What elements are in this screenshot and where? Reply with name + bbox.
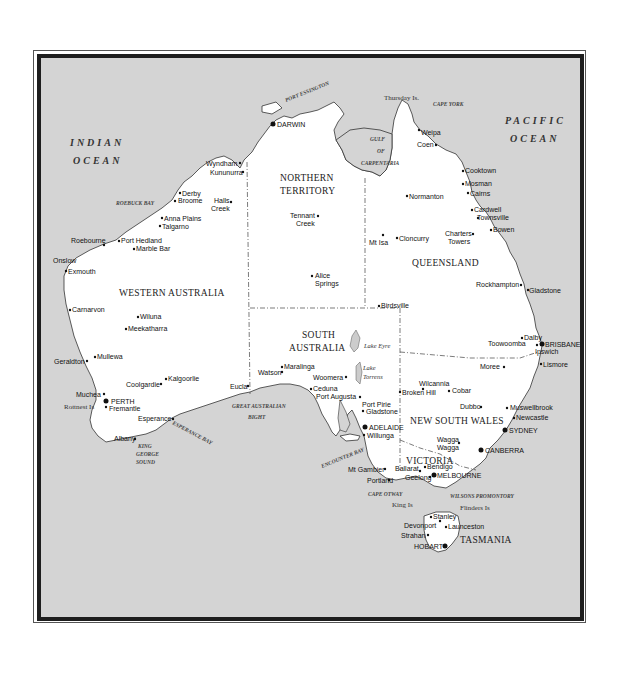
state-label-sa: SOUTH — [302, 330, 335, 340]
town-onslow: Onslow — [53, 257, 77, 264]
thursday-island-label: Thursday Is. — [384, 94, 419, 102]
town-tennant-creek-line2: Creek — [296, 220, 315, 227]
town-birdsville: Birdsville — [381, 302, 409, 309]
state-label-nt-line2: TERRITORY — [280, 186, 335, 196]
town-toowoomba: Toowoomba — [488, 340, 526, 347]
town-mosman: Mosman — [465, 180, 492, 187]
town-maralinga: Maralinga — [284, 363, 315, 371]
town-port-augusta: Port Augusta — [316, 393, 356, 401]
gulf-label-line2: OF — [377, 148, 385, 154]
town-coolgardie: Coolgardie — [126, 381, 160, 389]
town-roebourne: Roebourne — [71, 237, 106, 244]
town-anna-plains: Anna Plains — [164, 215, 202, 222]
town-dalby: Dalby — [524, 334, 542, 342]
town-port-hedland: Port Hedland — [121, 237, 162, 244]
gulf-label: GULF — [370, 136, 385, 142]
town-moree: Moree — [480, 363, 500, 370]
capital-marker-canberra — [479, 448, 484, 453]
town-bendigo: Bendigo — [427, 463, 453, 471]
indian-ocean-label-line2: OCEAN — [73, 155, 122, 166]
state-label-nt: NORTHERN — [280, 173, 334, 183]
town-wilcannia: Wilcannia — [419, 380, 449, 387]
town-albany: Albany — [114, 435, 136, 443]
capital-marker-hobart — [443, 544, 448, 549]
town-muchea: Muchea — [76, 391, 101, 398]
town-halls-creek-line2: Creek — [211, 205, 230, 212]
town-mt-gambier: Mt Gambier — [348, 466, 385, 473]
town-eucla: Eucla — [230, 383, 248, 390]
state-label-qld: QUEENSLAND — [412, 258, 479, 268]
town-charters-towers-line2: Towers — [448, 238, 471, 245]
capital-marker-melbourne — [432, 473, 437, 478]
city-melbourne: MELBOURNE — [437, 472, 482, 479]
town-mt-isa: Mt Isa — [369, 239, 388, 246]
town-geraldton: Geraldton — [54, 358, 85, 365]
town-wyndham: Wyndham — [206, 160, 238, 168]
town-launceston: Launceston — [448, 523, 484, 530]
town-ceduna: Ceduna — [313, 385, 338, 392]
city-adelaide: ADELAIDE — [369, 424, 404, 431]
town-kununurra: Kununurra — [210, 169, 243, 176]
cape-york-label: CAPE YORK — [433, 101, 464, 107]
town-alice-springs-line2: Springs — [315, 280, 339, 288]
lake-torrens-label-line2: Torrens — [363, 373, 383, 380]
town-cardwell: Cardwell — [474, 206, 502, 213]
city-perth: PERTH — [111, 398, 135, 405]
town-portland: Portland — [367, 477, 393, 484]
town-cloncurry: Cloncurry — [399, 235, 429, 243]
town-willunga: Willunga — [367, 432, 394, 440]
capital-marker-adelaide — [363, 425, 368, 430]
town-mullewa: Mullewa — [97, 353, 123, 360]
esperance-bay-label: ESPERANCE BAY — [171, 419, 214, 446]
town-ballarat: Ballarat — [395, 465, 419, 472]
cape-otway-label: CAPE OTWAY — [368, 491, 403, 497]
town-cobar: Cobar — [452, 387, 472, 394]
town-kalgoorlie: Kalgoorlie — [168, 375, 199, 383]
town-charters-towers: Charters — [445, 230, 472, 237]
town-broken-hill: Broken Hill — [402, 389, 436, 396]
state-label-tas: TASMANIA — [460, 535, 512, 545]
town-tennant-creek: Tennant — [290, 212, 315, 219]
town-strahan: Strahan — [401, 532, 426, 539]
town-geelong: Geelong — [405, 474, 432, 482]
town-rockhampton: Rockhampton — [476, 281, 519, 289]
town-cooktown: Cooktown — [465, 167, 496, 174]
town-marble-bar: Marble Bar — [136, 245, 171, 252]
town-newcastle: Newcastle — [516, 414, 548, 421]
lake-torrens-label: Lake — [362, 364, 376, 371]
town-weipa: Weipa — [421, 129, 441, 137]
capital-marker-sydney — [503, 428, 508, 433]
state-label-sa-line2: AUSTRALIA — [289, 343, 346, 353]
city-darwin: DARWIN — [277, 121, 305, 128]
state-label-wa: WESTERN AUSTRALIA — [119, 288, 225, 298]
king-island-label: King Is — [392, 501, 413, 509]
town-meekatharra: Meekatharra — [128, 325, 167, 332]
town-dubbo: Dubbo — [460, 403, 481, 410]
town-townsville: Townsville — [477, 214, 509, 221]
city-canberra: CANBERRA — [485, 447, 524, 454]
great-australian-bight-label-line2: BIGHT — [247, 414, 266, 420]
australia-map: INDIAN OCEAN PACIFIC OCEAN WESTERN AUSTR… — [0, 0, 617, 673]
town-esperance: Esperance — [138, 415, 172, 423]
town-broome: Broome — [178, 197, 203, 204]
town-gladstone-sa: Gladstone — [366, 408, 398, 415]
wilsons-promontory-label: WILSONS PROMONTORY — [450, 493, 514, 499]
town-woomera: Woomera — [313, 374, 343, 381]
town-wagga-wagga-line2: Wagga — [437, 444, 459, 452]
town-stanley: Stanley — [433, 513, 457, 521]
town-coen: Coen — [417, 141, 434, 148]
town-exmouth: Exmouth — [68, 268, 96, 275]
kangaroo-island — [340, 434, 360, 441]
town-normanton: Normanton — [409, 193, 444, 200]
town-muswellbrook: Muswellbrook — [510, 404, 553, 411]
town-watson: Watson — [258, 369, 282, 376]
pacific-ocean-label: PACIFIC — [505, 115, 566, 126]
town-gladstone-qld: Gladstone — [529, 287, 561, 294]
roebuck-bay-label: ROEBUCK BAY — [115, 200, 155, 206]
king-george-sound-label: KING — [137, 443, 152, 449]
town-lismore: Lismore — [543, 361, 568, 368]
town-devonport: Devonport — [404, 522, 436, 530]
town-cairns: Cairns — [470, 190, 491, 197]
town-port-pirie: Port Pirie — [362, 401, 391, 408]
king-george-sound-label-line2: GEORGE — [136, 451, 159, 457]
